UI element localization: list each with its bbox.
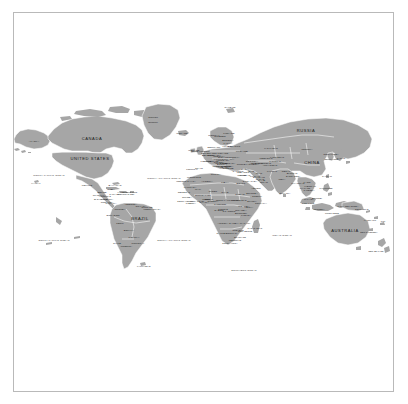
country-label-angola: ANGOLA [217, 222, 228, 225]
country-label-bolivia: BOLIVIA [124, 229, 135, 232]
country-label-lebanon: LEBANON [237, 171, 250, 174]
country-label-turkey: TURKEY [237, 163, 248, 166]
ocean-label: SOUTH PACIFIC OCEAN [38, 239, 69, 242]
country-label-argentina: ARGENTINA [120, 245, 133, 247]
landmass-tasmania [356, 246, 361, 250]
country-label-north-korea: NORTH KOREA [323, 153, 339, 155]
country-label-uganda: UGANDA [238, 205, 250, 208]
world-map-image[interactable]: NORTH PACIFIC OCEAN SOUTH PACIFIC OCEAN … [14, 91, 393, 309]
country-label-zambia: ZAMBIA [229, 222, 239, 225]
country-label-vanuatu: VANUATU [364, 219, 376, 222]
country-label-french-guiana: FRENCH GUIANA [143, 208, 161, 210]
country-label-belize: BELIZE [97, 191, 106, 194]
country-label-congo: CONGO [218, 208, 228, 211]
country-label-sierra-leone: SIERRA LEONE [177, 200, 193, 202]
country-label-australia: AUSTRALIA [331, 228, 359, 233]
country-label-taiwan: TAIWAN [322, 175, 332, 178]
country-label-bahamas: BAHAMAS [109, 184, 122, 187]
country-label-chile: CHILE [113, 242, 121, 245]
country-label-armenia: ARMENIA [247, 163, 259, 166]
country-label-dominican-rep: DOMINICAN REP. [117, 193, 134, 195]
country-label-afghanistan: AFGHANISTAN [263, 164, 278, 166]
landmass-canada [48, 116, 144, 153]
landmass-svalbard [226, 108, 235, 113]
ocean-label: SOUTHERN OCEAN [231, 269, 256, 272]
country-label-bangladesh: BANGLADESH [286, 175, 301, 177]
country-label-jordan: JORDAN [240, 174, 251, 177]
country-label-mali: MALI [195, 188, 201, 191]
country-label-united-states: UNITED STATES [71, 156, 110, 161]
country-label-brazil: BRAZIL [131, 216, 149, 221]
country-label-colombia: COLOMBIA [115, 208, 127, 210]
country-label-burkina-faso: BURKINA FASO [195, 194, 211, 196]
country-label-chad: CHAD [221, 191, 229, 194]
country-label-egypt: EGYPT [237, 182, 246, 185]
country-label-tunisia: TUNISIA [211, 173, 222, 176]
country-label-ukraine: UKRAINE [236, 150, 248, 153]
country-label-djibouti: DJIBOUTI [252, 195, 262, 197]
country-label-fiji: FIJI [381, 220, 386, 223]
country-label-latvia: LATVIA [223, 142, 232, 145]
country-label-somalia: SOMALIA [255, 202, 267, 205]
country-label-solomon-is: SOLOMON IS. [355, 208, 369, 210]
country-label-sudan: SUDAN [235, 193, 244, 196]
country-label-falkland-is: FALKLAND IS. [137, 265, 151, 267]
country-label-south-sudan: SOUTH SUDAN [231, 199, 247, 201]
country-label-philippines: PHILIPPINES [320, 187, 333, 189]
country-label-libya: LIBYA [221, 181, 229, 184]
country-label-denmark: DENMARK [207, 146, 220, 149]
country-label-uruguay: URUGUAY [131, 242, 144, 245]
country-label-lithuania: LITHUANIA [223, 145, 234, 147]
country-label-timor-leste: TIMOR-LESTE [325, 212, 340, 214]
country-label-vietnam: VIETNAM [304, 185, 316, 188]
country-label-south-africa: SOUTH AFRICA [222, 242, 238, 244]
country-label-swaziland: SWAZILAND [234, 236, 247, 238]
country-label-south-korea: SOUTH KOREA [324, 158, 340, 160]
country-label-laos: LAOS [303, 181, 310, 184]
landmass-aleutians [14, 148, 31, 153]
country-label-china: CHINA [304, 160, 320, 165]
country-label-sweden: SWEDEN [214, 135, 226, 138]
country-label-cameroon: CAMEROON [214, 203, 227, 205]
country-label-yemen: YEMEN [251, 187, 260, 190]
country-label-hawaii: HAWAII [31, 182, 41, 185]
country-label-botswana: BOTSWANA [226, 232, 238, 234]
country-label-burundi: BURUNDI [235, 212, 247, 215]
country-label-morocco: MOROCCO [187, 176, 201, 179]
country-label-peru: PERU [116, 222, 123, 225]
country-label-madagascar: MADAGASCAR [248, 227, 263, 229]
ocean-label: NORTH PACIFIC OCEAN [33, 174, 64, 177]
country-label-western-sahara: WESTERN SAHARA [176, 180, 196, 182]
country-label-new-zealand: NEW ZEALAND [368, 250, 384, 252]
country-label-bahrain: BAHRAIN [253, 176, 265, 179]
country-label-togo: TOGO [202, 198, 210, 201]
country-label-el-salvador: EL SALVADOR [94, 198, 109, 200]
country-label-costa-rica: COSTA RICA [101, 201, 114, 203]
country-label-estonia: ESTONIA [222, 139, 234, 142]
country-label-canada: CANADA [82, 136, 102, 141]
country-label-tajikistan: TAJIKISTAN [269, 160, 281, 162]
country-label-portugal: PORTUGAL [186, 168, 198, 170]
country-label-paraguay: PARAGUAY [128, 236, 140, 238]
country-label-mongolia: MONGOLIA [301, 148, 313, 150]
country-label-cuba: CUBA [107, 188, 115, 191]
country-label-kazakhstan: KAZAKHSTAN [264, 147, 278, 149]
country-label-sri-lanka: SRI LANKA [280, 192, 291, 194]
country-label-brunei: BRUNEI [312, 197, 322, 200]
country-label-senegal: SENEGAL [178, 191, 191, 194]
country-label-india: INDIA [278, 178, 285, 181]
country-label-russia: RUSSIA [297, 128, 316, 133]
country-label-montenegro: MONTENEGRO [215, 165, 230, 167]
country-label-mexico: MEXICO [82, 184, 92, 187]
world-map-svg[interactable]: NORTH PACIFIC OCEAN SOUTH PACIFIC OCEAN … [14, 91, 393, 309]
screenshot-canvas: NORTH PACIFIC OCEAN SOUTH PACIFIC OCEAN … [0, 0, 408, 404]
country-label-singapore: SINGAPORE [302, 202, 315, 204]
country-label-indonesia: INDONESIA [313, 208, 325, 210]
country-label-ecuador: ECUADOR [106, 214, 119, 217]
country-label-svalbard: SVALBARD [225, 106, 236, 108]
country-label-moldova: MOLDOVA [226, 156, 239, 159]
country-label-zimbabwe: ZIMBABWE [232, 229, 244, 231]
country-label-guatemala: GUATEMALA [93, 194, 106, 196]
country-label-finland: FINLAND [223, 132, 234, 135]
country-label-iceland: ICELAND [176, 132, 188, 135]
